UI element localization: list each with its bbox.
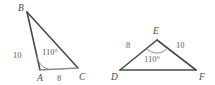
geometry-figure: B A C 10 8 110° E D F 8 10 xyxy=(0,0,215,85)
vertex-label-d: D xyxy=(110,72,118,82)
vertex-label-e: E xyxy=(152,26,159,36)
angle-measure-a: 110° xyxy=(42,47,58,57)
geometry-canvas: B A C 10 8 110° E D F 8 10 xyxy=(0,0,215,85)
segment-bc xyxy=(27,12,78,68)
side-length-ab: 10 xyxy=(13,50,22,60)
right-triangle-group: E D F 8 10 110° xyxy=(110,26,205,82)
vertex-label-b: B xyxy=(18,3,24,13)
side-length-ef: 10 xyxy=(176,40,185,50)
vertex-label-a: A xyxy=(36,73,43,83)
angle-arc-e xyxy=(147,48,168,53)
left-triangle-group: B A C 10 8 110° xyxy=(13,3,86,83)
vertex-label-f: F xyxy=(198,72,205,82)
vertex-label-c: C xyxy=(79,72,86,82)
side-length-de: 8 xyxy=(126,40,130,50)
angle-measure-e: 110° xyxy=(144,54,160,64)
side-length-ac: 8 xyxy=(57,73,61,83)
